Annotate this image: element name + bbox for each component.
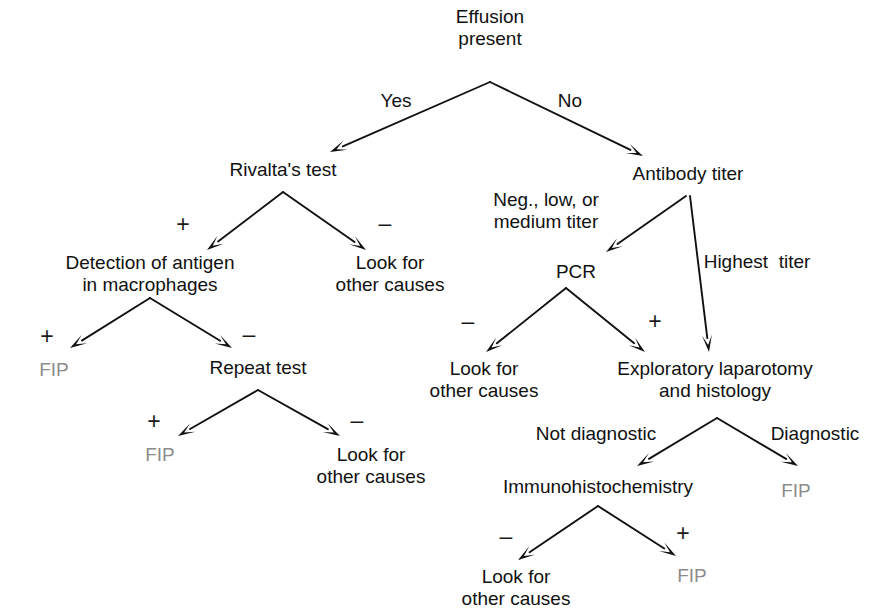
edge-pcr-to-look2 (486, 288, 566, 352)
edge-label-rivalta-plus: + (176, 211, 189, 238)
node-exploratory: Exploratory laparotomy and histology (617, 358, 812, 402)
edge-label-det-plus: + (40, 323, 53, 350)
edge-label-pcr-plus: + (648, 308, 661, 335)
node-look2: Look for other causes (430, 358, 539, 402)
node-fip1: FIP (39, 359, 69, 381)
edge-repeat-to-fip2 (178, 390, 258, 436)
node-look1: Look for other causes (336, 252, 445, 296)
node-immuno: Immunohistochemistry (503, 476, 693, 498)
edge-label-highest-titer: Highest titer (704, 251, 811, 273)
node-effusion: Effusion present (456, 6, 524, 50)
edge-immuno-to-look4 (518, 506, 598, 560)
node-fip2: FIP (145, 444, 175, 466)
edge-pcr-to-exploratory (566, 288, 645, 352)
edge-rivalta-to-look1 (283, 192, 366, 250)
edge-antibody-to-exploratory (690, 196, 712, 352)
edge-rivalta-to-detection (207, 192, 283, 250)
edge-label-not-diagnostic: Not diagnostic (536, 423, 656, 445)
edge-label-rivalta-minus: – (379, 210, 392, 237)
edge-label-pcr-minus: – (462, 308, 475, 335)
node-antibody: Antibody titer (633, 163, 744, 185)
edge-label-det-minus: – (243, 321, 256, 348)
edge-antibody-to-pcr (606, 196, 686, 252)
node-rivalta: Rivalta's test (229, 159, 336, 181)
node-fip4: FIP (677, 565, 707, 587)
edge-immuno-to-fip4 (598, 506, 676, 556)
node-look3: Look for other causes (317, 444, 426, 488)
diagram-edges (0, 0, 895, 610)
edge-label-no: No (558, 90, 582, 112)
edge-label-immuno-plus: + (676, 520, 689, 547)
edge-detection-to-fip1 (70, 298, 150, 348)
edge-label-yes: Yes (381, 90, 412, 112)
node-detection: Detection of antigen in macrophages (65, 252, 234, 296)
edge-label-rep-minus: – (351, 407, 364, 434)
edge-label-neg-low-med: Neg., low, or medium titer (493, 189, 599, 233)
edge-label-rep-plus: + (147, 408, 160, 435)
node-fip3: FIP (781, 480, 811, 502)
edge-label-immuno-minus: – (500, 523, 513, 550)
edge-label-diagnostic: Diagnostic (771, 423, 860, 445)
decision-tree-diagram: Effusion presentRivalta's testAntibody t… (0, 0, 895, 610)
node-look4: Look for other causes (462, 566, 571, 610)
node-repeat: Repeat test (209, 357, 306, 379)
node-pcr: PCR (556, 261, 596, 283)
edge-detection-to-repeat (150, 298, 232, 348)
edge-repeat-to-look3 (258, 390, 340, 436)
